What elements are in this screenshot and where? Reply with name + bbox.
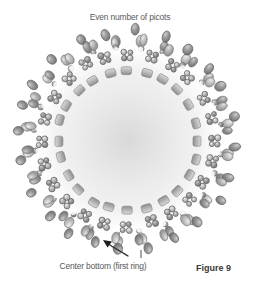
beaded-ring-illustration bbox=[0, 0, 260, 286]
figure-9-diagram: Even number of picots Center bottom (fir… bbox=[0, 0, 260, 286]
arrow-pointer bbox=[103, 240, 141, 258]
figure-caption: Figure 9 bbox=[196, 264, 258, 273]
ring-bead-layers bbox=[13, 23, 241, 254]
ring-body bbox=[24, 36, 232, 244]
bottom-annotation-label: Center bottom (first ring) bbox=[0, 262, 206, 271]
top-annotation-label: Even number of picots bbox=[0, 13, 260, 22]
